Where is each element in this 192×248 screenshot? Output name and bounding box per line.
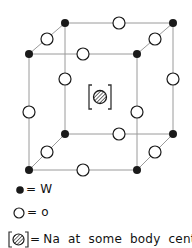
tungsten-atom	[61, 19, 69, 27]
legend-tungsten-icon	[16, 186, 24, 194]
tungsten-atom	[169, 19, 177, 27]
legend-label-oxygen: o	[41, 205, 49, 219]
oxygen-atom	[113, 128, 125, 140]
oxygen-atom	[41, 33, 53, 45]
oxygen-atom	[149, 33, 161, 45]
legend-item-sodium: = Na at some body centres	[30, 232, 192, 246]
legend-item-tungsten: = W	[26, 182, 52, 196]
tungsten-atom	[133, 50, 141, 58]
oxygen-atom	[77, 164, 89, 176]
legend-label-tungsten: W	[40, 182, 52, 196]
legend-item-oxygen: = o	[27, 205, 49, 219]
legend-sodium-icon	[9, 232, 28, 247]
oxygen-atom	[77, 48, 89, 60]
oxygen-atom	[41, 146, 53, 158]
oxygen-atom	[59, 73, 71, 85]
oxygen-atom	[131, 106, 143, 118]
oxygen-atom	[167, 73, 179, 85]
tungsten-atom	[25, 166, 33, 174]
tungsten-atom	[25, 50, 33, 58]
legend-equals: =	[30, 232, 40, 246]
tungsten-atom	[61, 130, 69, 138]
sodium-body-centre	[89, 85, 111, 109]
legend-label-sodium: Na at some body centres	[43, 232, 192, 246]
tungsten-atom	[169, 130, 177, 138]
oxygen-atom	[149, 146, 161, 158]
tungsten-atom	[133, 166, 141, 174]
legend-equals: =	[26, 182, 36, 196]
legend-oxygen-icon	[14, 208, 24, 218]
oxygen-atom	[23, 106, 35, 118]
oxygen-atom	[113, 17, 125, 29]
legend-equals: =	[27, 205, 37, 219]
